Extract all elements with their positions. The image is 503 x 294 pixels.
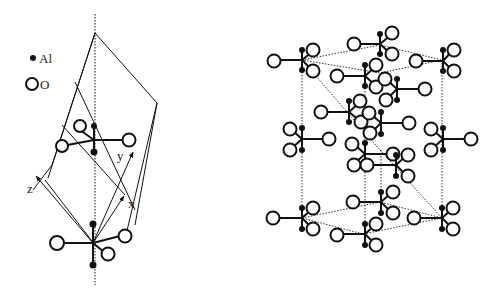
unit-top-left xyxy=(268,44,320,78)
unit-top-center xyxy=(348,27,399,61)
unit-bottom-right xyxy=(408,202,460,236)
legend: Al O xyxy=(26,51,52,92)
axis-label-x: x xyxy=(128,196,135,211)
axis-label-y: y xyxy=(117,148,124,163)
unit-mid-left xyxy=(284,123,336,157)
unit-top-right xyxy=(410,44,461,78)
molecule-lower xyxy=(50,221,132,269)
unit-mid-right-center xyxy=(363,107,416,140)
unit-bottom-upper xyxy=(347,186,400,220)
al-atom-icon xyxy=(30,55,36,61)
unit-bottom-left xyxy=(267,202,320,236)
crystal-structure-figure: Al O z y x xyxy=(0,0,503,294)
unit-upper-mid-b xyxy=(379,73,432,107)
unit-mid-left-center xyxy=(315,95,368,129)
legend-al-label: Al xyxy=(39,51,52,66)
axis-label-z: z xyxy=(27,181,33,196)
unit-mid-right xyxy=(425,123,478,157)
unit-bottom-center xyxy=(331,218,383,252)
molecule-upper xyxy=(56,120,136,156)
legend-o-label: O xyxy=(40,77,49,92)
o-atom-icon xyxy=(26,78,38,90)
unit-upper-mid-a xyxy=(331,59,383,94)
axis-vectors xyxy=(36,152,133,243)
